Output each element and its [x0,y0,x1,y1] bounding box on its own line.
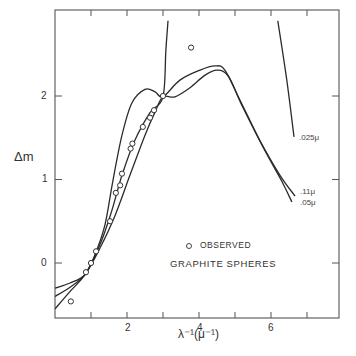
legend-title: GRAPHITE SPHERES [170,259,276,269]
curve-025 [278,21,294,137]
plot-border [55,10,339,318]
legend-observed-text: OBSERVED [200,240,251,250]
plot-frame [55,10,339,318]
x-tick-label-2: 2 [125,323,131,333]
observed-point [113,190,118,195]
observed-point [83,270,88,275]
x-axis-label: λ⁻¹(μ⁻¹) [178,328,219,340]
y-axis-label: Δm [14,150,34,163]
observed-point [147,115,152,120]
observed-point [140,124,145,129]
observed-point [130,141,135,146]
observed-point [160,93,165,98]
observed-point [68,299,73,304]
y-tick-label-1: 1 [42,174,48,184]
curve-label-025: .025μ [299,134,319,142]
chart-canvas [0,0,356,356]
observed-point [118,183,123,188]
observed-point [188,45,193,50]
open-circle-marker-icon [186,243,192,249]
curve-label-05: .05μ [300,199,316,207]
x-tick-label-6: 6 [268,323,274,333]
observed-point [93,249,98,254]
y-tick-label-0: 0 [41,258,47,268]
observed-point [151,108,156,113]
observed-point [119,171,124,176]
curve-label-11: .11μ [300,188,315,196]
curve-025 [55,21,168,309]
legend-observed: OBSERVED [186,241,251,250]
observed-point [128,146,133,151]
observed-point [107,219,112,224]
observed-point [88,260,93,265]
curve-11 [55,66,295,288]
y-tick-label-2: 2 [41,91,47,101]
